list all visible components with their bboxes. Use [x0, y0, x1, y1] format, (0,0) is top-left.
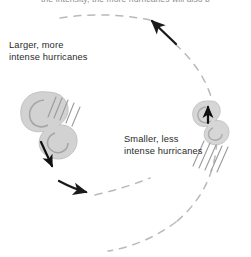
- figure-canvas: the intensity, the more hurricanes will …: [0, 0, 251, 257]
- bottom-arrow-icon: [59, 181, 86, 192]
- top-arrow-icon: [152, 21, 176, 44]
- label-large-intense-hurricanes: Larger, more intense hurricanes: [9, 40, 88, 63]
- left-storm-icon: [21, 92, 80, 166]
- figure-graphics: [0, 0, 251, 257]
- label-small-intense-hurricanes: Smaller, less intense hurricanes: [124, 134, 203, 157]
